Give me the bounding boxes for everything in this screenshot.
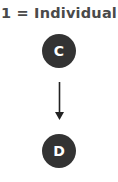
node-d-label: D	[53, 143, 65, 159]
node-d: D	[42, 134, 76, 168]
arrowhead-icon	[55, 112, 64, 120]
